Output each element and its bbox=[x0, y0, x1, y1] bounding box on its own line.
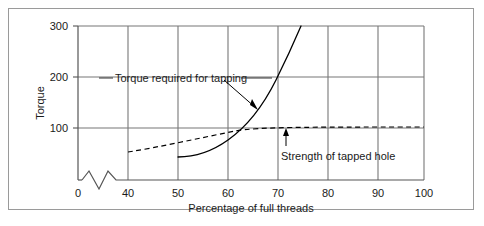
y-axis-title: Torque bbox=[34, 86, 46, 120]
y-tick-label-300: 300 bbox=[50, 20, 68, 32]
y-tick-marks bbox=[73, 26, 78, 128]
x-tick-label-90: 90 bbox=[372, 187, 384, 199]
x-tick-label-40: 40 bbox=[122, 187, 134, 199]
x-tick-label-80: 80 bbox=[322, 187, 334, 199]
x-tick-label-70: 70 bbox=[272, 187, 284, 199]
torque-vs-thread-percentage-chart: 300 200 100 0 40 50 60 70 80 90 100 Perc… bbox=[0, 0, 484, 226]
figure-root: 300 200 100 0 40 50 60 70 80 90 100 Perc… bbox=[0, 0, 484, 226]
x-axis-title: Percentage of full threads bbox=[188, 202, 314, 214]
x-tick-label-50: 50 bbox=[172, 187, 184, 199]
annotation-strength-label: Strength of tapped hole bbox=[281, 150, 395, 162]
y-tick-label-200: 200 bbox=[50, 71, 68, 83]
y-tick-label-100: 100 bbox=[50, 122, 68, 134]
x-tick-label-60: 60 bbox=[222, 187, 234, 199]
x-tick-label-0: 0 bbox=[75, 187, 81, 199]
annotation-torque-required-label: Torque required for tapping bbox=[115, 72, 247, 84]
x-tick-label-100: 100 bbox=[415, 187, 433, 199]
